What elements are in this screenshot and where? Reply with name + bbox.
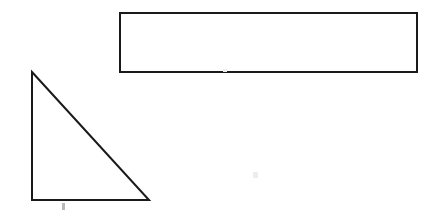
drawing-canvas bbox=[0, 0, 435, 215]
faint-mark-below-base-icon bbox=[62, 203, 65, 210]
faint-background-speck-icon bbox=[253, 172, 258, 178]
faint-speck-on-rectangle-edge-icon bbox=[223, 69, 227, 72]
geometric-figure-drawing bbox=[0, 0, 435, 215]
